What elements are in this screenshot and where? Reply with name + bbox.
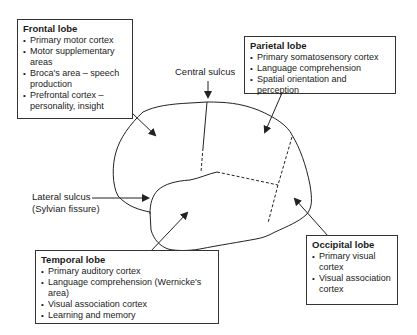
parietal-item: Language comprehension (250, 63, 390, 74)
frontal-lobe-box: Frontal lobe Primary motor cortex Motor … (17, 19, 133, 119)
parieto-occipital-boundary (268, 137, 292, 223)
parietal-item: Spatial orientation and perception (250, 74, 390, 96)
central-sulcus-label: Central sulcus (175, 66, 235, 78)
frontal-item: Motor supplementary areas (23, 46, 127, 68)
lateral-sulcus-label-line1: Lateral sulcus (32, 191, 100, 203)
brain-outline (113, 102, 311, 251)
temporal-item: Visual association cortex (41, 299, 213, 310)
temporal-boundary (150, 172, 217, 214)
occipital-lobe-title: Occipital lobe (312, 239, 392, 250)
temporal-lobe-box: Temporal lobe Primary auditory cortex La… (35, 250, 219, 324)
frontal-lobe-title: Frontal lobe (23, 23, 127, 34)
lateral-sulcus-label: Lateral sulcus (Sylvian fissure) (32, 191, 100, 215)
parietal-arrow (265, 93, 282, 132)
parietal-lobe-title: Parietal lobe (250, 40, 390, 51)
central-sulcus-dashed (201, 148, 203, 172)
occipital-lobe-box: Occipital lobe Primary visual cortex Vis… (306, 235, 398, 305)
occipital-item: Visual association cortex (312, 273, 392, 295)
temporal-lobe-title: Temporal lobe (41, 254, 213, 265)
frontal-item: Prefrontal cortex – personality, insight (23, 90, 127, 112)
central-sulcus-line (203, 102, 207, 148)
temporal-item: Learning and memory (41, 310, 213, 321)
frontal-item: Broca's area – speech production (23, 68, 127, 90)
frontal-arrow (132, 113, 155, 135)
lateral-sulcus-label-line2: (Sylvian fissure) (32, 203, 100, 215)
parietal-temporal-boundary (217, 172, 278, 185)
parietal-lobe-box: Parietal lobe Primary somatosensory cort… (244, 36, 396, 94)
parietal-item: Primary somatosensory cortex (250, 52, 390, 63)
temporal-item: Primary auditory cortex (41, 266, 213, 277)
temporal-arrow (150, 213, 187, 252)
frontal-item: Primary motor cortex (23, 35, 127, 46)
temporal-item: Language comprehension (Wernicke's area) (41, 277, 213, 299)
occipital-item: Primary visual cortex (312, 251, 392, 273)
